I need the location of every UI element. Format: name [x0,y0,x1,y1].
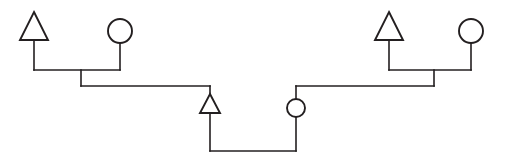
gen1-left-male-triangle-icon [20,12,48,40]
gen2-female-circle-icon [287,99,305,117]
pedigree-canvas [0,0,505,162]
gen2-male-triangle-icon [200,94,220,113]
pedigree-diagram [0,0,505,162]
gen1-right-male-triangle-icon [375,12,403,40]
symbol-layer [20,12,483,117]
gen1-right-female-circle-icon [459,19,483,43]
gen1-left-female-circle-icon [108,19,132,43]
connector-layer [34,40,471,151]
